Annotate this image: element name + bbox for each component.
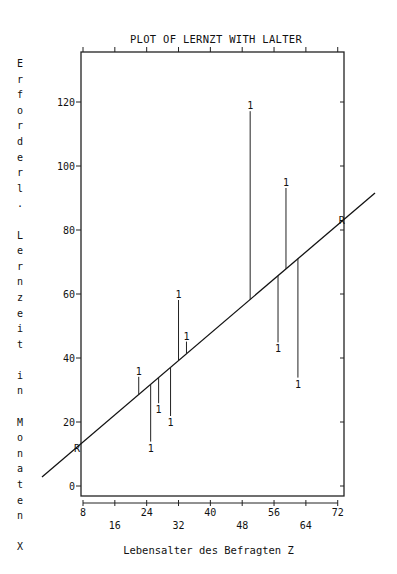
data-point: 1 <box>275 343 281 354</box>
y-tick-label: 80 <box>63 225 75 236</box>
data-point: 1 <box>295 379 301 390</box>
y-tick-label: 20 <box>63 417 75 428</box>
x-tick-label: 32 <box>172 520 184 531</box>
regression-line <box>42 193 375 477</box>
x-tick-label: 72 <box>332 507 344 518</box>
y-tick-label: 100 <box>57 161 75 172</box>
data-point: 1 <box>247 100 253 111</box>
x-tick-label: 16 <box>109 520 121 531</box>
regression-marker: R <box>339 215 346 226</box>
data-point: 1 <box>283 177 289 188</box>
data-point: 1 <box>176 289 182 300</box>
data-point: 1 <box>156 404 162 415</box>
plot-area: 81624324048566472020406080100120RR111111… <box>0 0 397 574</box>
y-tick-label: 0 <box>69 481 75 492</box>
plot-frame <box>81 52 344 496</box>
data-point: 1 <box>183 331 189 342</box>
y-tick-label: 40 <box>63 353 75 364</box>
x-tick-label: 48 <box>236 520 248 531</box>
x-tick-label: 40 <box>204 507 216 518</box>
data-point: 1 <box>136 366 142 377</box>
scatter-plot: PLOT OF LERNZT WITH LALTER E r f o r d e… <box>0 0 397 574</box>
y-tick-label: 120 <box>57 97 75 108</box>
x-tick-label: 64 <box>300 520 312 531</box>
data-point: 1 <box>168 417 174 428</box>
x-tick-label: 56 <box>268 507 280 518</box>
regression-marker: R <box>74 443 81 454</box>
x-tick-label: 8 <box>80 507 86 518</box>
y-tick-label: 60 <box>63 289 75 300</box>
data-point: 1 <box>148 443 154 454</box>
x-tick-label: 24 <box>141 507 153 518</box>
